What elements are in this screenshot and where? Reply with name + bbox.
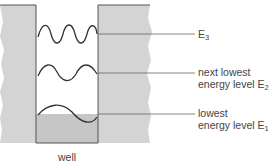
wavefunction-e2 — [38, 65, 97, 81]
e1-line2-wrap: energy level E1 — [198, 119, 269, 135]
e1-subscript: 1 — [265, 124, 269, 133]
label-e2: next lowest energy level E2 — [198, 66, 269, 94]
left-wall — [0, 5, 36, 143]
label-e1: lowest energy level E1 — [198, 107, 269, 135]
e1-line1: lowest — [198, 107, 269, 119]
right-wall — [98, 5, 152, 143]
e3-symbol: E — [198, 28, 205, 40]
e2-line1: next lowest — [198, 66, 269, 78]
e2-subscript: 2 — [265, 83, 269, 92]
e1-line2: energy level E — [198, 119, 265, 131]
e2-line2-wrap: energy level E2 — [198, 78, 269, 94]
well-bottom-fill — [36, 114, 98, 143]
e2-line2: energy level E — [198, 78, 265, 90]
well-label: well — [58, 151, 76, 163]
e3-subscript: 3 — [205, 33, 209, 42]
wavefunction-e3 — [38, 25, 97, 43]
label-e3: E3 — [198, 28, 209, 44]
